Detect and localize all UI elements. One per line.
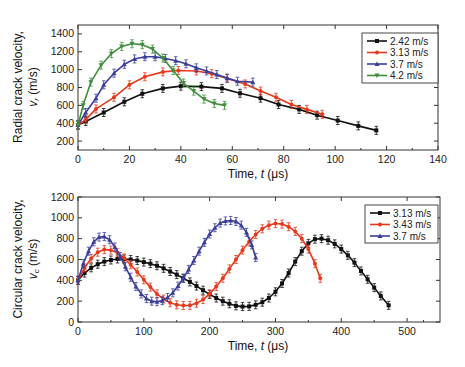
data-point (247, 304, 251, 308)
data-point (81, 261, 86, 266)
data-point (162, 266, 166, 270)
y-axis-label-line2: vr (m/s) (26, 67, 41, 106)
data-point (313, 262, 317, 266)
data-point (374, 128, 378, 132)
x-tick-label: 200 (201, 325, 219, 337)
x-tick-label: 80 (278, 153, 290, 165)
series-line (78, 86, 376, 130)
x-tick-label: 100 (326, 153, 344, 165)
data-point (148, 285, 152, 289)
data-point (253, 255, 258, 259)
data-point (188, 303, 192, 307)
y-axis-label-line2: vc (m/s) (26, 239, 41, 280)
data-point (122, 100, 126, 104)
data-point (366, 277, 370, 281)
series-group (76, 216, 391, 310)
data-point (214, 296, 218, 300)
figure: 0204060801001201402004006008001000120014… (0, 0, 465, 367)
data-point (135, 270, 139, 274)
data-point (148, 262, 152, 266)
y-tick-label: 1000 (51, 63, 75, 75)
data-point (238, 91, 242, 95)
data-point (234, 304, 238, 308)
data-point (234, 258, 238, 262)
series-line (78, 57, 253, 125)
data-point (352, 261, 356, 265)
data-point (267, 223, 271, 227)
x-tick-label: 60 (226, 153, 238, 165)
data-point (254, 233, 258, 237)
data-point (161, 86, 165, 90)
data-point (259, 96, 263, 100)
legend-marker (375, 51, 379, 55)
data-point (112, 95, 116, 99)
data-point (89, 266, 93, 270)
legend-label: 3.7 m/s (390, 59, 423, 70)
series-2-42-m-s (76, 82, 378, 134)
legend: 2.42 m/s3.13 m/s3.7 m/s4.2 m/s (362, 33, 438, 83)
y-tick-label: 200 (56, 295, 74, 307)
data-point (267, 296, 271, 300)
data-point (175, 273, 179, 277)
data-point (346, 253, 350, 257)
y-tick-label: 0 (68, 316, 74, 328)
data-point (273, 222, 277, 226)
data-point (387, 303, 391, 307)
y-tick-label: 800 (56, 81, 74, 93)
data-point (176, 69, 180, 73)
x-tick-label: 40 (175, 153, 187, 165)
y-tick-label: 1000 (51, 211, 75, 223)
data-point (274, 95, 278, 99)
data-point (280, 222, 284, 226)
x-tick-label: 140 (429, 153, 447, 165)
series-group (76, 40, 379, 135)
data-point (168, 269, 172, 273)
data-point (88, 80, 93, 85)
data-point (188, 280, 192, 284)
data-point (273, 290, 277, 294)
data-point (313, 237, 317, 241)
data-point (287, 225, 291, 229)
y-axis-label-line1: Radial crack velocity, (11, 31, 25, 143)
data-point (102, 111, 106, 115)
x-tick-label: 500 (398, 325, 416, 337)
y-tick-label: 1200 (51, 45, 75, 57)
x-tick-label: 120 (378, 153, 396, 165)
y-tick-label: 400 (56, 117, 74, 129)
data-point (260, 300, 264, 304)
data-point (359, 269, 363, 273)
data-point (181, 304, 185, 308)
legend-marker (378, 223, 382, 227)
data-point (94, 107, 98, 111)
data-point (221, 299, 225, 303)
legend-label: 3.13 m/s (390, 47, 428, 58)
data-point (175, 303, 179, 307)
y-axis-label: Radial crack velocity, vr (m/s) (11, 31, 41, 143)
data-point (155, 292, 159, 296)
data-point (155, 264, 159, 268)
data-point (241, 248, 245, 252)
data-point (129, 263, 133, 267)
data-point (289, 102, 293, 106)
x-axis-label: Time, t (μs) (228, 339, 288, 353)
legend-label: 3.7 m/s (393, 231, 426, 242)
data-point (199, 85, 203, 89)
data-point (96, 262, 100, 266)
y-tick-label: 1400 (51, 27, 75, 39)
data-point (109, 258, 113, 262)
data-point (293, 260, 297, 264)
data-point (140, 92, 144, 96)
data-point (143, 75, 147, 79)
data-point (300, 249, 304, 253)
y-axis-label-line1: Circular crack velocity, (11, 199, 25, 318)
x-tick-label: 20 (124, 153, 136, 165)
x-tick-label: 300 (267, 325, 285, 337)
x-tick-label: 400 (333, 325, 351, 337)
data-point (241, 305, 245, 309)
data-point (201, 298, 205, 302)
data-point (127, 83, 131, 87)
data-point (194, 284, 198, 288)
legend-label: 3.13 m/s (393, 208, 431, 219)
data-point (227, 267, 231, 271)
data-point (280, 281, 284, 285)
